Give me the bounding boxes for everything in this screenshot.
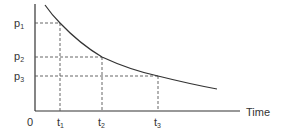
label-t2: t2 bbox=[98, 116, 105, 129]
label-p1: p1 bbox=[14, 17, 24, 30]
decay-diagram: p1 p2 p3 0 t1 t2 t3 Time bbox=[0, 0, 284, 134]
label-p3: p3 bbox=[14, 70, 24, 83]
label-p2: p2 bbox=[14, 50, 24, 63]
x-axis-label: Time bbox=[246, 106, 270, 118]
label-t3: t3 bbox=[154, 116, 161, 129]
origin-label: 0 bbox=[27, 116, 33, 128]
guide-lines bbox=[35, 23, 158, 111]
label-t1: t1 bbox=[57, 116, 64, 129]
